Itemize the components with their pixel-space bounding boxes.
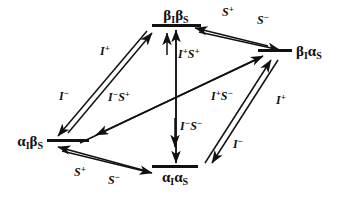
edge-label-left-to-top: I+ [99, 43, 110, 58]
node-label-top: βIβS [163, 7, 189, 25]
edge-label-vertical-lower: I−S− [179, 118, 202, 133]
edge-label-right-to-top: S+ [222, 4, 234, 19]
arrow-right-to-top-Splus [195, 28, 268, 46]
edge-label-bottom-to-right: I+ [275, 92, 286, 107]
arrow-bottom-to-left-Splus [58, 147, 150, 172]
arrow-left-to-top-Iplus [68, 33, 152, 133]
node-label-left: αIβS [17, 133, 43, 151]
node-label-right: βIαS [296, 43, 322, 61]
edge-label-vertical-upper: I+S+ [177, 46, 200, 61]
arrow-top-to-right-Sminus [199, 32, 280, 50]
diagram-canvas: βIβS βIαS αIβS αIαS I+ I− S+ S− S+ [0, 0, 340, 200]
edge-label-left-to-bottom: S− [108, 172, 120, 187]
edge-label-diagonal-right-to-left: I−S+ [107, 89, 130, 104]
node-label-bottom: αIαS [162, 169, 189, 187]
edge-label-right-to-bottom: I− [232, 136, 243, 151]
thermodynamic-cycle-diagram: βIβS βIαS αIβS αIαS I+ I− S+ S− S+ [0, 0, 340, 200]
arrow-bottom-to-right-Iplus [205, 60, 271, 163]
edge-label-diagonal-left-to-right: I+S− [210, 88, 233, 103]
edge-label-bottom-to-left: S+ [74, 164, 86, 179]
edge-label-top-to-left: I− [58, 88, 69, 103]
edge-label-top-to-right: S− [257, 12, 269, 27]
